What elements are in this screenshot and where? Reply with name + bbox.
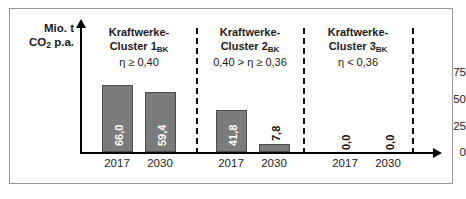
y-axis-title-line2: CO2 p.a. (0, 36, 74, 50)
cluster-header-1-line1: Kraftwerke- (84, 25, 194, 39)
cluster-header-1-line2: Cluster 1BK (84, 39, 194, 55)
bar-value-cluster3-2030: 0,0 (384, 135, 396, 150)
bar-value-cluster2-2030: 7,8 (270, 126, 282, 141)
cluster-header-1: Kraftwerke- Cluster 1BK η ≥ 0,40 (84, 25, 194, 69)
bar-value-cluster1-2017: 66,0 (113, 125, 125, 146)
y-axis-line (80, 27, 82, 154)
cluster-header-2: Kraftwerke- Cluster 2BK 0,40 > η ≥ 0,36 (199, 25, 301, 69)
y-tick-label-50: 50 (394, 93, 466, 105)
x-axis-line (80, 152, 435, 154)
chart-figure: Mio. t CO2 p.a. 75 50 25 0 Kraftwerke- C… (0, 0, 466, 199)
cluster-header-1-subscript: BK (157, 45, 169, 54)
cluster-header-3-condition: η < 0,36 (306, 55, 410, 69)
cluster-header-3-name: Cluster 3 (329, 40, 376, 52)
bar-value-cluster1-2030: 59,4 (156, 125, 168, 146)
x-tick-label-cluster2-2017: 2017 (208, 157, 254, 169)
x-tick-label-cluster1-2017: 2017 (94, 157, 140, 169)
cluster-header-2-name: Cluster 2 (221, 40, 268, 52)
cluster-header-2-subscript: BK (268, 45, 280, 54)
cluster-separator-2 (303, 28, 305, 154)
x-tick-label-cluster2-2030: 2030 (251, 157, 297, 169)
cluster-header-3-subscript: BK (376, 45, 388, 54)
cluster-header-2-condition: 0,40 > η ≥ 0,36 (199, 55, 301, 69)
y-axis-title-line1: Mio. t (0, 22, 74, 35)
cluster-header-2-line1: Kraftwerke- (199, 25, 301, 39)
bar-value-cluster2-2017: 41,8 (227, 125, 239, 146)
x-tick-label-cluster1-2030: 2030 (137, 157, 183, 169)
x-tick-label-cluster3-2017: 2017 (322, 157, 368, 169)
cluster-header-3: Kraftwerke- Cluster 3BK η < 0,36 (306, 25, 410, 69)
y-tick-label-25: 25 (394, 120, 466, 132)
bar-value-cluster3-2017: 0,0 (340, 135, 352, 150)
x-tick-label-cluster3-2030: 2030 (365, 157, 411, 169)
cluster-header-3-line1: Kraftwerke- (306, 25, 410, 39)
y-axis-title-co-subscript: 2 (46, 40, 51, 50)
cluster-separator-1 (196, 28, 198, 154)
y-axis-title-pa: p.a. (51, 36, 74, 48)
bar-cluster2-2030 (259, 144, 290, 152)
cluster-header-3-line2: Cluster 3BK (306, 39, 410, 55)
cluster-separator-3 (412, 28, 414, 154)
cluster-header-1-condition: η ≥ 0,40 (84, 55, 194, 69)
y-axis-title-co: CO (29, 36, 46, 48)
cluster-header-1-name: Cluster 1 (110, 40, 157, 52)
cluster-header-2-line2: Cluster 2BK (199, 39, 301, 55)
